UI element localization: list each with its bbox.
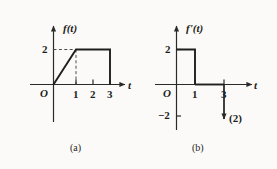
panel-b-xtick-label-1: 1 <box>192 89 198 100</box>
panel-a-plot <box>30 26 125 122</box>
panel-b-xtick-label-3: 3 <box>221 89 227 100</box>
panel-b-x-axis-label: t <box>254 80 257 91</box>
panel-b-ytick-label-2: 2 <box>165 44 171 55</box>
figure-svg <box>0 0 277 169</box>
panel-a-signal-curve <box>54 50 111 85</box>
panel-a-y-axis-label: f(t) <box>63 23 77 34</box>
panel-b-y-axis-label: f'(t) <box>186 23 203 34</box>
panel-a-x-axis-label: t <box>128 80 131 91</box>
panel-b-pulse <box>177 50 196 85</box>
panel-a-ytick-label-2: 2 <box>42 44 48 55</box>
panel-b-ytick-label-neg2: −2 <box>158 110 170 121</box>
figure-container: f(t) t O 2 1 2 3 (a) f'(t) t O 2 −2 1 3 … <box>0 0 277 169</box>
panel-b-caption: (b) <box>192 143 204 153</box>
panel-a-xtick-label-2: 2 <box>90 89 96 100</box>
panel-a-caption: (a) <box>70 143 81 153</box>
panel-b-origin-label: O <box>163 88 171 99</box>
panel-a-xtick-label-3: 3 <box>107 89 113 100</box>
panel-a-xtick-label-1: 1 <box>73 89 79 100</box>
panel-b-impulse-label: (2) <box>229 113 242 124</box>
panel-a-origin-label: O <box>40 88 48 99</box>
